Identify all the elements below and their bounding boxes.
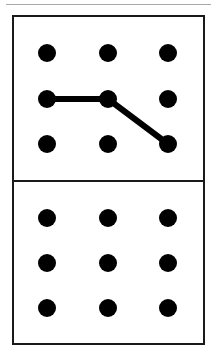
top-rule-divider <box>6 4 211 5</box>
grid-dot-t-r3c2[interactable] <box>99 135 117 153</box>
grid-dot-t-r3c3[interactable] <box>159 135 177 153</box>
grid-dot-b-r1c3[interactable] <box>159 209 177 227</box>
grid-dot-b-r2c1[interactable] <box>38 254 56 272</box>
grid-dot-t-r1c2[interactable] <box>99 44 117 62</box>
grid-dot-t-r2c3[interactable] <box>159 90 177 108</box>
pattern-card-canvas <box>0 0 217 361</box>
grid-dot-t-r2c2[interactable] <box>99 90 117 108</box>
grid-dot-b-r3c1[interactable] <box>38 299 56 317</box>
grid-dot-b-r2c2[interactable] <box>99 254 117 272</box>
grid-dot-t-r2c1[interactable] <box>38 90 56 108</box>
grid-dot-t-r1c1[interactable] <box>38 44 56 62</box>
grid-dot-b-r3c2[interactable] <box>99 299 117 317</box>
grid-dot-b-r2c3[interactable] <box>159 254 177 272</box>
grid-dot-b-r1c2[interactable] <box>99 209 117 227</box>
grid-dot-b-r3c3[interactable] <box>159 299 177 317</box>
grid-dot-t-r3c1[interactable] <box>38 135 56 153</box>
grid-dot-b-r1c1[interactable] <box>38 209 56 227</box>
grid-dot-t-r1c3[interactable] <box>159 44 177 62</box>
